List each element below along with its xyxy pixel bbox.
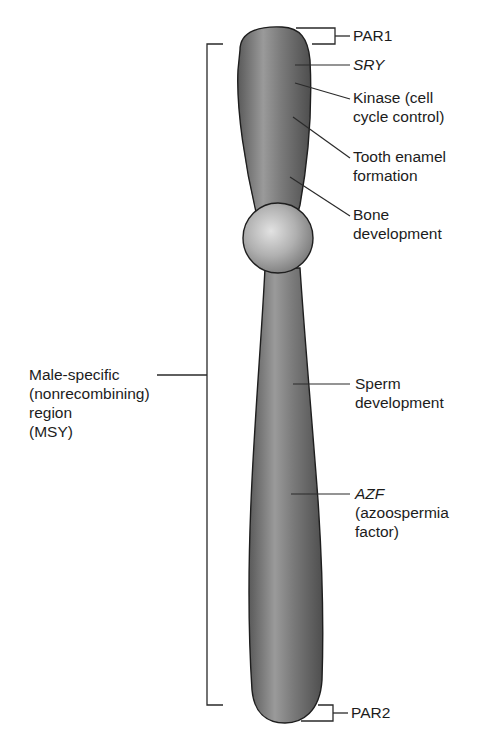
tooth-line-2: formation	[353, 166, 446, 185]
sperm-line-2: development	[355, 393, 444, 412]
msy-bracket	[157, 44, 223, 705]
azf-line-2: (azoospermia	[355, 503, 449, 522]
tooth-line-1: Tooth enamel	[353, 147, 446, 166]
bone-line-2: development	[353, 224, 442, 243]
long-arm	[249, 268, 323, 723]
bone-line-1: Bone	[353, 205, 442, 224]
short-arm	[238, 27, 311, 212]
label-tooth: Tooth enamel formation	[353, 147, 446, 185]
msy-line-1: Male-specific	[29, 365, 150, 384]
kinase-line-1: Kinase (cell	[353, 88, 444, 107]
sry-text: SRY	[353, 55, 384, 74]
centromere	[243, 203, 313, 273]
y-chromosome-diagram: PAR1 SRY Kinase (cell cycle control) Too…	[0, 0, 501, 745]
azf-line-3: factor)	[355, 522, 449, 541]
azf-line-1: AZF	[355, 484, 449, 503]
label-par2: PAR2	[351, 703, 390, 722]
label-kinase: Kinase (cell cycle control)	[353, 88, 444, 126]
par2-text: PAR2	[351, 703, 390, 722]
sperm-line-1: Sperm	[355, 374, 444, 393]
msy-line-4: (MSY)	[29, 422, 150, 441]
label-par1: PAR1	[353, 26, 392, 45]
msy-line-2: (nonrecombining)	[29, 384, 150, 403]
label-sry: SRY	[353, 55, 384, 74]
msy-line-3: region	[29, 403, 150, 422]
label-msy: Male-specific (nonrecombining) region (M…	[29, 365, 150, 441]
label-azf: AZF (azoospermia factor)	[355, 484, 449, 541]
kinase-line-2: cycle control)	[353, 107, 444, 126]
label-sperm: Sperm development	[355, 374, 444, 412]
label-bone: Bone development	[353, 205, 442, 243]
par1-text: PAR1	[353, 26, 392, 45]
